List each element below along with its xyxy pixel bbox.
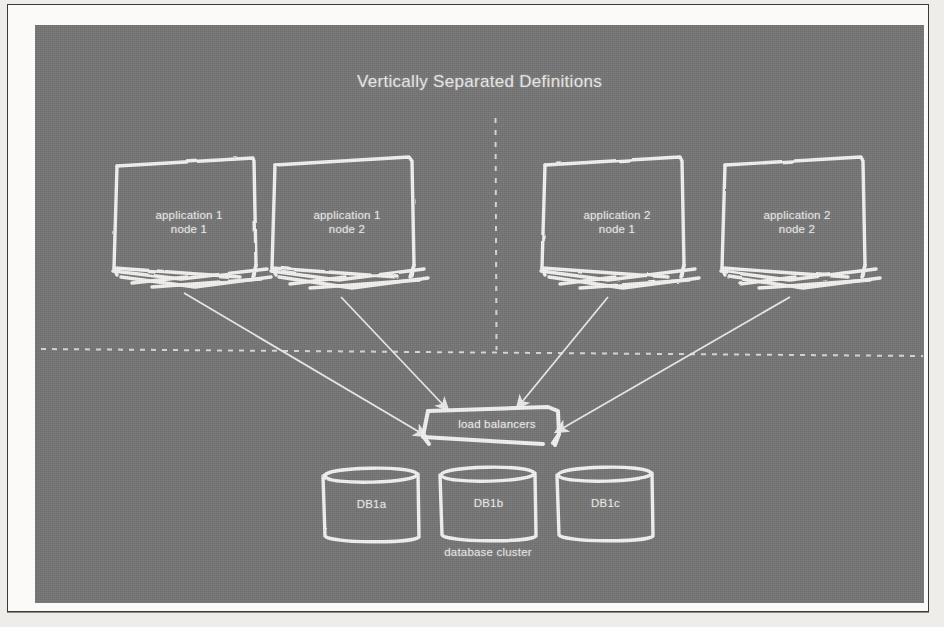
database-label-db1c: DB1c — [558, 497, 653, 509]
node-label-line2: node 1 — [547, 222, 687, 236]
database-label-db1a: DB1a — [324, 498, 419, 510]
horizontal-dashed-separator — [41, 349, 923, 356]
node-label-line1: application 2 — [547, 208, 687, 222]
node-label-app1-node2: application 1 node 2 — [277, 208, 417, 236]
node-label-line1: application 1 — [277, 208, 417, 222]
node-label-line2: node 1 — [119, 222, 259, 236]
scanned-paper-sheet: Vertically Separated Definitions applica… — [7, 4, 929, 612]
load-balancer-label: load balancers — [437, 418, 557, 430]
screenshot-page: Vertically Separated Definitions applica… — [0, 0, 944, 627]
node-label-line2: node 2 — [277, 222, 417, 236]
slide-title: Vertically Separated Definitions — [35, 72, 924, 92]
node-label-app2-node2: application 2 node 2 — [727, 208, 867, 236]
node-label-line1: application 1 — [119, 208, 259, 222]
arrow-app1node1-to-lb — [184, 293, 426, 436]
database-cluster-label: database cluster — [393, 546, 583, 558]
node-label-app2-node1: application 2 node 1 — [547, 208, 687, 236]
node-label-line1: application 2 — [727, 208, 867, 222]
presentation-slide: Vertically Separated Definitions applica… — [35, 25, 924, 603]
connector-arrows — [184, 293, 790, 436]
vertical-dashed-separator — [496, 118, 497, 350]
node-label-line2: node 2 — [727, 222, 867, 236]
diagram-canvas — [35, 25, 924, 603]
node-label-app1-node1: application 1 node 1 — [119, 208, 259, 236]
arrow-app1node2-to-lb — [341, 297, 448, 410]
database-label-db1b: DB1b — [441, 497, 536, 509]
